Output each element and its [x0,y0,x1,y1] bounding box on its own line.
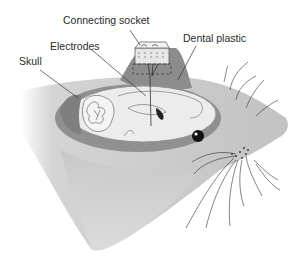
label-skull: Skull [19,56,42,67]
label-connecting-socket: Connecting socket [63,15,149,26]
label-electrodes: Electrodes [50,41,100,52]
eye [192,130,204,142]
leader-connecting-socket [130,30,140,45]
rodent-head-illustration [0,0,305,264]
cerebellum [82,95,114,131]
label-dental-plastic: Dental plastic [183,33,246,44]
electrode-implant-diagram: Connecting socket Dental plastic Electro… [0,0,305,264]
